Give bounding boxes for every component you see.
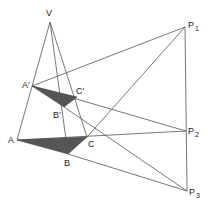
- triangle-AprimeBprimeCprime: [32, 86, 77, 107]
- line-B-P3: [68, 154, 187, 191]
- label-C: C: [88, 139, 95, 149]
- label-Cprime: C′: [76, 86, 84, 96]
- line-Bprime-P3: [64, 107, 187, 191]
- label-A: A: [8, 135, 14, 145]
- triangle-ABC: [17, 137, 87, 154]
- label-P1: P: [188, 20, 194, 30]
- line-V-B: [50, 22, 68, 154]
- line-A-P1: [87, 27, 185, 137]
- desargues-diagram: V P 1 P 2 P 3 A B C A′ B′ C′: [0, 0, 210, 207]
- label-P1-sub: 1: [195, 25, 199, 32]
- label-Bprime: B′: [53, 110, 61, 120]
- label-V: V: [46, 8, 52, 18]
- label-P3: P: [189, 187, 195, 197]
- line-P1-P3: [185, 27, 187, 191]
- label-P3-sub: 3: [196, 192, 200, 199]
- label-P2-sub: 2: [195, 131, 199, 138]
- label-Aprime: A′: [22, 80, 30, 90]
- label-P2: P: [188, 126, 194, 136]
- label-B: B: [64, 158, 70, 168]
